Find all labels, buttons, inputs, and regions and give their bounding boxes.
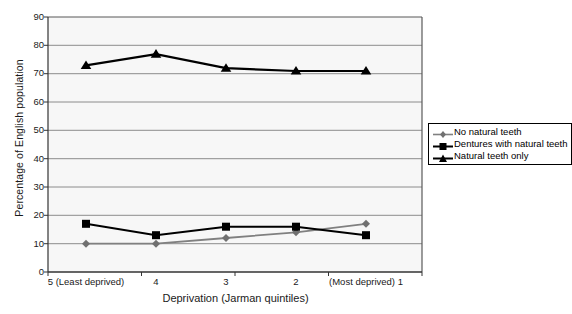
- x-tick-label: 4: [153, 276, 158, 287]
- legend-label: No natural teeth: [454, 126, 522, 137]
- chart-legend: No natural teeth Dentures with natural t…: [428, 123, 572, 165]
- legend-item-natural-teeth-only: Natural teeth only: [432, 150, 568, 161]
- x-tick-label: 5 (Least deprived): [48, 276, 125, 287]
- x-tick-label: (Most deprived) 1: [329, 276, 403, 287]
- square-marker-icon: [432, 138, 454, 149]
- x-axis-title: Deprivation (Jarman quintiles): [48, 292, 423, 304]
- legend-item-dentures-with-natural-teeth: Dentures with natural teeth: [432, 138, 568, 149]
- legend-item-no-natural-teeth: No natural teeth: [432, 126, 568, 137]
- triangle-marker-icon: [432, 150, 454, 161]
- x-tick-label: 2: [293, 276, 298, 287]
- data-point-marker: [222, 223, 230, 231]
- x-tick-label: 3: [223, 276, 228, 287]
- data-point-marker: [152, 231, 160, 239]
- legend-label: Dentures with natural teeth: [454, 138, 568, 149]
- data-point-marker: [292, 223, 300, 231]
- diamond-marker-icon: [432, 126, 454, 137]
- data-point-marker: [362, 231, 370, 239]
- data-point-marker: [82, 220, 90, 228]
- legend-label: Natural teeth only: [454, 150, 528, 161]
